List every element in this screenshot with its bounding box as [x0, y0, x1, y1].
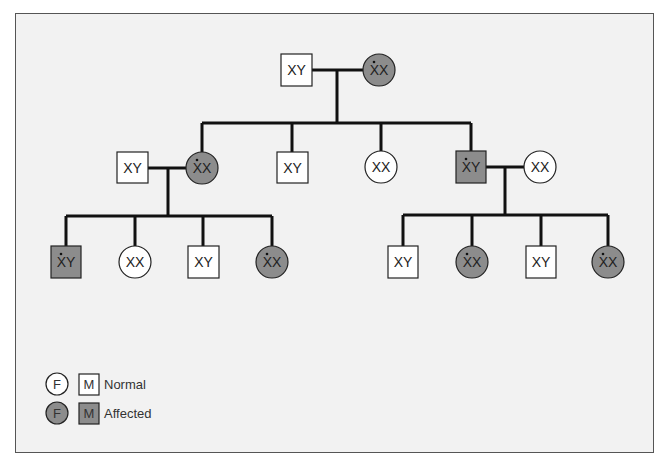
svg-text:XY: XY [123, 160, 142, 176]
svg-text:XY: XY [287, 62, 306, 78]
gen1-female-affected: XX [363, 54, 395, 86]
legend-affected: F M Affected [46, 402, 151, 424]
gen2-female-affected: XX [186, 152, 218, 184]
gen3-left-male-normal: XY [188, 246, 219, 278]
svg-text:XX: XX [126, 254, 145, 270]
svg-text:XX: XX [193, 160, 212, 176]
svg-text:XX: XX [263, 254, 282, 270]
svg-text:XY: XY [462, 159, 481, 175]
gen2-spouse-right-female: XX [524, 151, 556, 183]
gen3-left-female-normal: XX [119, 246, 151, 278]
legend-affected-label: Affected [104, 406, 151, 421]
gen3-right-female-affected-2: XX [592, 246, 624, 278]
svg-text:XY: XY [394, 254, 413, 270]
gen3-right-female-affected: XX [456, 246, 488, 278]
legend-normal-label: Normal [104, 377, 146, 392]
svg-text:XX: XX [599, 254, 618, 270]
gen1-male-normal: XY [281, 54, 312, 86]
svg-text:M: M [84, 377, 95, 392]
svg-text:F: F [53, 377, 61, 392]
gen3-left-male-affected: XY [51, 246, 81, 278]
svg-text:XY: XY [194, 254, 213, 270]
legend-normal: F M Normal [46, 373, 146, 395]
svg-text:M: M [84, 406, 95, 421]
svg-text:XY: XY [57, 254, 76, 270]
svg-text:XX: XX [463, 254, 482, 270]
svg-text:XX: XX [372, 159, 391, 175]
svg-text:XX: XX [531, 159, 550, 175]
gen2-male-affected: XY [456, 151, 486, 183]
gen2-female-normal: XX [365, 151, 397, 183]
svg-text:XY: XY [532, 254, 551, 270]
gen3-left-female-affected: XX [256, 246, 288, 278]
pedigree-diagram: XY XX XY XX XY XX XY XX XY XX [0, 0, 665, 470]
gen3-right-male-normal: XY [388, 246, 418, 278]
svg-text:F: F [53, 406, 61, 421]
gen2-spouse-left-male: XY [117, 152, 148, 183]
svg-text:XX: XX [370, 62, 389, 78]
svg-text:XY: XY [283, 160, 302, 176]
gen3-right-male-normal-2: XY [526, 246, 556, 278]
gen2-male-normal: XY [277, 152, 308, 183]
legend: F M Normal F M Affected [46, 373, 151, 424]
